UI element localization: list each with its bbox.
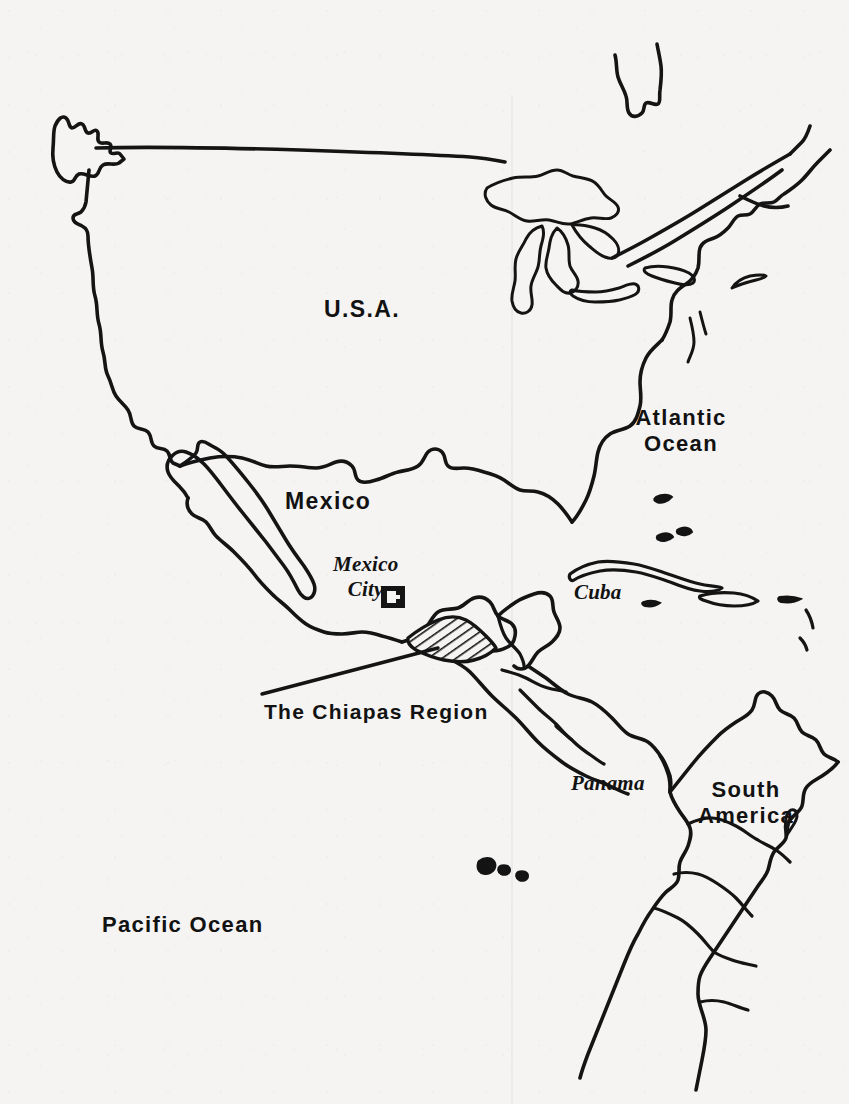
border-ecuador-peru [654, 908, 714, 952]
coastline-south-america-pacific [580, 792, 691, 1078]
coastline-newfoundland [615, 44, 661, 116]
label-mexico: Mexico [285, 488, 371, 515]
island-galapagos-1 [478, 858, 496, 874]
border-usa-mexico [180, 449, 572, 522]
island-bahamas-1 [654, 495, 672, 503]
island-puerto-rico [778, 597, 801, 603]
coastline-chesapeake-bay [688, 312, 706, 362]
island-lesser-antilles [800, 610, 813, 650]
island-galapagos-3 [516, 871, 528, 881]
map-figure: U.S.A. Mexico Mexico City Cuba Panama At… [0, 0, 849, 1104]
border-usa-canada-west [96, 147, 505, 162]
label-pacific-ocean: Pacific Ocean [102, 912, 263, 938]
island-bahamas-2 [657, 533, 673, 541]
label-cuba: Cuba [574, 580, 622, 605]
label-mexico-city: Mexico City [333, 552, 398, 602]
chiapas-leader-line [262, 648, 438, 694]
coastline-long-island [732, 275, 766, 288]
border-brazil-interior [700, 1001, 748, 1011]
label-chiapas-region: The Chiapas Region [264, 700, 489, 725]
border-peru-brazil [714, 952, 756, 966]
label-usa: U.S.A. [324, 296, 400, 323]
coastline-us-west [73, 170, 180, 466]
coastline-yucatan-peninsula [498, 593, 560, 669]
label-south-america: South America [698, 777, 794, 829]
lake-superior [485, 170, 618, 224]
lake-michigan [512, 226, 544, 313]
island-jamaica [642, 601, 660, 606]
label-atlantic-ocean: Atlantic Ocean [635, 405, 726, 457]
chiapas-region-shape [408, 617, 496, 662]
lake-huron [546, 228, 578, 293]
island-hispaniola [699, 593, 758, 606]
lake-huron-georgian-bay [572, 225, 619, 259]
island-bahamas-3 [677, 528, 692, 536]
label-panama: Panama [571, 771, 645, 796]
coastline-canada-east [740, 126, 810, 208]
island-galapagos-2 [498, 865, 510, 875]
map-graphic [0, 0, 849, 1104]
lake-erie [570, 284, 639, 302]
border-costa-rica [556, 726, 604, 764]
